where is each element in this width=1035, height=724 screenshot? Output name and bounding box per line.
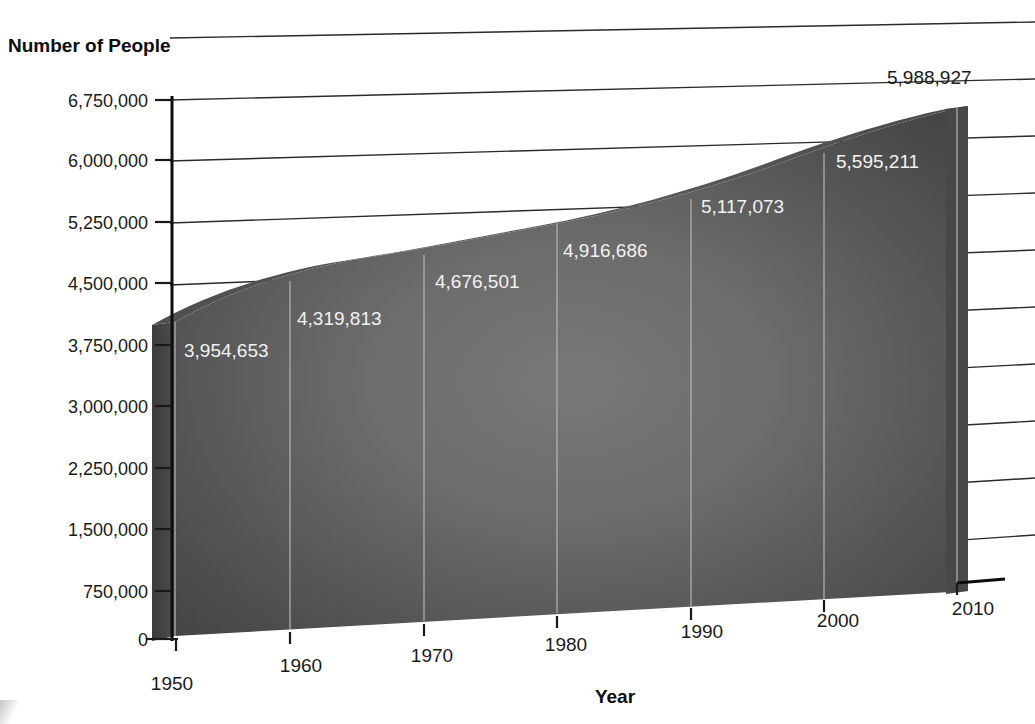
y-tick-label: 0 xyxy=(138,630,148,650)
x-tick-label: 1960 xyxy=(280,655,322,676)
data-label: 5,595,211 xyxy=(836,151,919,172)
y-tick-label: 3,000,000 xyxy=(68,397,148,417)
data-label: 5,988,927 xyxy=(887,67,972,88)
y-axis-title: Number of People xyxy=(8,35,171,56)
x-tick-label: 2010 xyxy=(952,598,994,619)
y-tick-label: 4,500,000 xyxy=(68,274,148,294)
x-axis-title: Year xyxy=(595,686,636,707)
y-tick-label: 2,250,000 xyxy=(68,459,148,479)
x-tick-label: 1990 xyxy=(681,621,723,642)
y-tick-label: 5,250,000 xyxy=(68,213,148,233)
chart-container: 6,750,000 6,000,000 5,250,000 4,500,000 … xyxy=(0,0,1035,724)
x-tick-label: 1950 xyxy=(151,673,193,694)
data-label: 4,916,686 xyxy=(563,240,648,261)
data-label: 4,319,813 xyxy=(297,308,382,329)
data-label: 3,954,653 xyxy=(184,340,269,361)
y-tick-label: 3,750,000 xyxy=(68,336,148,356)
area-chart-3d: 6,750,000 6,000,000 5,250,000 4,500,000 … xyxy=(0,0,1035,724)
x-tick-label: 1980 xyxy=(545,634,587,655)
y-tick-label: 1,500,000 xyxy=(68,520,148,540)
data-label: 5,117,073 xyxy=(701,196,784,217)
y-tick-label: 6,750,000 xyxy=(68,91,148,111)
y-tick-label: 750,000 xyxy=(83,582,148,602)
data-label: 4,676,501 xyxy=(435,271,520,292)
y-tick-label: 6,000,000 xyxy=(68,151,148,171)
x-tick-label: 2000 xyxy=(817,610,859,631)
x-tick-label: 1970 xyxy=(411,645,453,666)
